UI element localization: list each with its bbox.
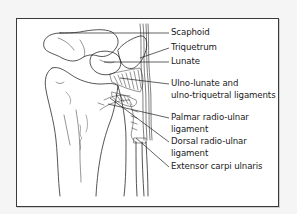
leader-triquetrum [140,48,169,58]
label-palmar-radio-ulnar: Palmar radio-ulnar [171,112,249,123]
label-dorsal-ligament: ligament [171,148,208,159]
leader-extensor-carpi-ulnaris [136,138,169,167]
ulna-bone [136,142,137,196]
label-lunate: Lunate [171,56,200,67]
label-ulno-triquetral: ulno-triquetral ligaments [171,90,276,101]
label-dorsal-radio-ulnar: Dorsal radio-ulnar [171,136,247,147]
scaphoid-bone [44,30,118,61]
label-palmar-ligament: ligament [171,124,208,135]
leader-ulno-lunate [120,78,169,84]
radius-bone [45,68,60,196]
wrist-anatomy-illustration [0,0,297,214]
label-extensor-carpi-ulnaris: Extensor carpi ulnaris [171,161,262,172]
label-scaphoid: Scaphoid [171,27,210,38]
label-triquetrum: Triquetrum [171,42,217,53]
figure-canvas: Scaphoid Triquetrum Lunate Ulno-lunate a… [0,0,297,214]
leader-dorsal-radio-ulnar [110,98,169,142]
label-ulno-lunate: Ulno-lunate and [171,78,238,89]
triquetrum-bone [118,36,147,69]
lunate-bone [90,51,121,75]
leader-palmar-radio-ulnar [108,104,169,118]
